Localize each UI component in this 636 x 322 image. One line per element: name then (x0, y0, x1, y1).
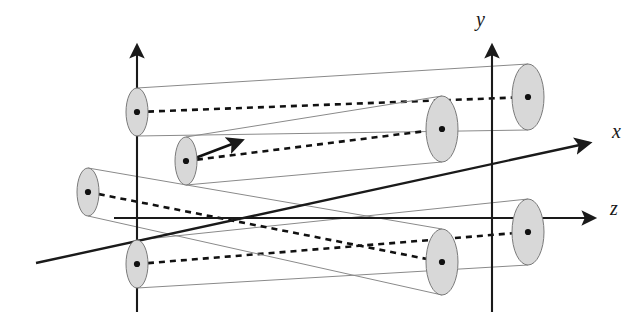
figure-canvas: y x z (0, 0, 636, 322)
beam-1-far-cap (512, 64, 544, 130)
beam-4-near-center-dot (134, 261, 140, 267)
beam-diagram-svg: y x z (0, 0, 636, 322)
beam-tube-4 (137, 199, 528, 288)
beam-3-near-cap (77, 168, 99, 216)
beam-3-far-cap (426, 229, 458, 295)
x-axis-label: x (611, 120, 621, 142)
beam-4-far-center-dot (525, 229, 531, 235)
beam-1-far-center-dot (525, 94, 531, 100)
beam-1-near-center-dot (134, 109, 140, 115)
beam-tube-1 (137, 64, 528, 136)
beam-4-near-cap (126, 240, 148, 288)
y-axis-label: y (474, 8, 485, 31)
beam-4-body (137, 199, 528, 288)
beam-3-near-center-dot (85, 189, 91, 195)
beam-2-near-cap (175, 137, 197, 185)
beam-3-far-center-dot (439, 259, 445, 265)
beam-2-direction-arrow (190, 141, 240, 160)
beam-2-far-center-dot (439, 126, 445, 132)
beam-1-near-cap (126, 88, 148, 136)
beam-4-far-cap (512, 199, 544, 265)
beam-2-far-cap (426, 96, 458, 162)
beam-2-near-center-dot (183, 158, 189, 164)
z-axis-label: z (609, 197, 618, 219)
